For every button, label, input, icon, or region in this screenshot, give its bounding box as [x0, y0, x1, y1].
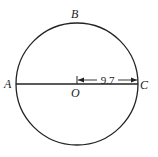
label-o: O: [71, 86, 80, 100]
label-b: B: [71, 7, 79, 21]
label-a: A: [3, 77, 12, 91]
arrowhead-left-icon: [78, 78, 84, 83]
arrowhead-right-icon: [131, 78, 137, 83]
circle-diagram: 9.7 A B C O: [0, 0, 158, 157]
radius-value: 9.7: [101, 74, 115, 86]
label-c: C: [140, 78, 149, 92]
